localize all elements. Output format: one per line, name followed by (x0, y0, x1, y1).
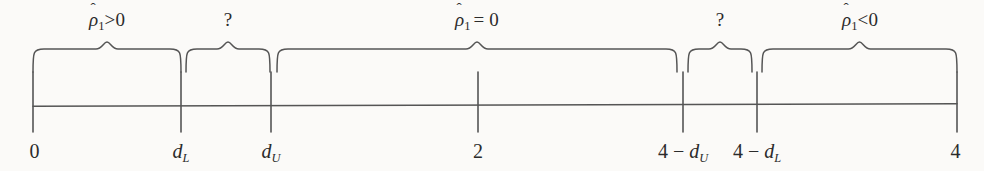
rho-hat-symbol: ˆρ (842, 10, 851, 29)
brace-negative-autocorrelation (762, 42, 957, 72)
tick-label-four-minus-d-upper: 4 − dU (658, 141, 708, 164)
region-label-inconclusive-left: ? (224, 10, 233, 29)
tick-label-two: 2 (473, 141, 483, 161)
tick-label-four: 4 (951, 141, 961, 161)
rho-hat-symbol: ˆρ (455, 10, 464, 29)
region-label-negative-autocorrelation: ˆρ1<0 (842, 10, 878, 32)
tick-label-d-upper: dU (262, 141, 281, 164)
prefix-text: 4 − (658, 140, 689, 162)
relation-text: = 0 (474, 9, 500, 30)
brace-no-autocorrelation (277, 42, 677, 72)
rho-hat-symbol: ˆρ (89, 10, 98, 29)
region-label-inconclusive-right: ? (716, 10, 725, 29)
d-glyph: d (689, 140, 699, 162)
d-glyph: d (173, 140, 183, 162)
axis-line (33, 104, 957, 106)
region-label-positive-autocorrelation: ˆρ1>0 (89, 10, 125, 32)
relation-text: <0 (857, 9, 878, 30)
prefix-text: 4 − (733, 140, 764, 162)
brace-positive-autocorrelation (33, 42, 181, 72)
relation-text: >0 (104, 9, 125, 30)
brace-inconclusive-right (688, 42, 752, 72)
hat-accent-icon: ˆ (457, 0, 462, 16)
tick-label-zero: 0 (30, 141, 40, 161)
tick-label-d-lower: dL (173, 141, 190, 164)
d-subscript: U (272, 151, 281, 165)
d-subscript: U (699, 151, 708, 165)
region-label-no-autocorrelation: ˆρ1= 0 (455, 10, 499, 32)
brace-inconclusive-left (186, 42, 270, 72)
rho-subscript: 1 (464, 19, 470, 33)
hat-accent-icon: ˆ (91, 0, 96, 16)
d-glyph: d (262, 140, 272, 162)
d-glyph: d (764, 140, 774, 162)
durbin-watson-number-line-figure: ˆρ1>0 ? ˆρ1= 0 ? ˆρ1<0 0 dL dU 2 4 − dU … (0, 0, 984, 171)
d-subscript: L (183, 151, 190, 165)
tick-label-four-minus-d-lower: 4 − dL (733, 141, 781, 164)
hat-accent-icon: ˆ (844, 0, 849, 16)
d-subscript: L (774, 151, 781, 165)
